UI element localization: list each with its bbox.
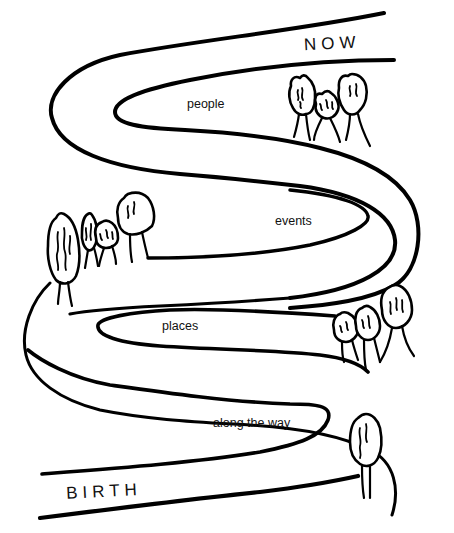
tree-icon [380, 285, 414, 362]
label-events: events [275, 214, 312, 228]
label-people: people [187, 97, 225, 111]
tree-icon [117, 193, 154, 262]
tree-group-upper-right [289, 74, 370, 146]
tree-icon [48, 213, 80, 306]
life-path-diagram: NOW people events places along the way B… [0, 0, 454, 533]
label-along-the-way: along the way [213, 416, 291, 430]
label-now: NOW [304, 32, 361, 54]
tree-group-bottom-right [350, 414, 381, 498]
tree-icon [314, 91, 340, 142]
tree-group-lower-right [333, 285, 414, 370]
tree-group-middle-left [48, 193, 154, 306]
tree-icon [95, 221, 118, 266]
tree-icon [338, 74, 370, 146]
tree-icon [350, 414, 381, 498]
label-birth: BIRTH [66, 480, 143, 503]
label-places: places [162, 319, 198, 333]
tree-icon [289, 75, 315, 140]
